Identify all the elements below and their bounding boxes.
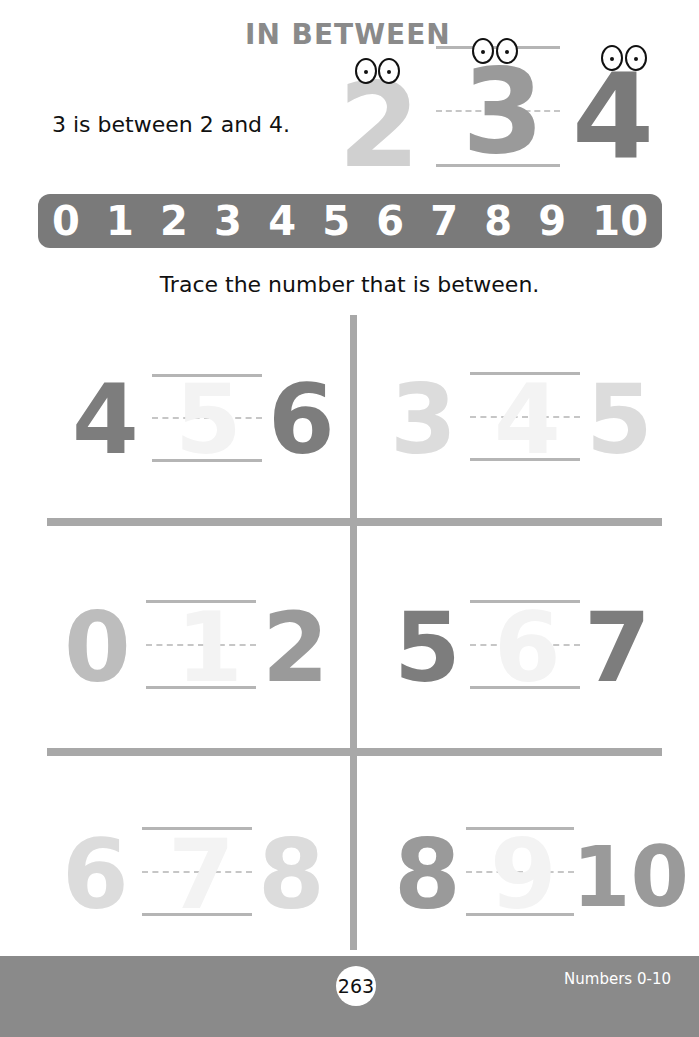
page-number: 263 bbox=[336, 966, 376, 1006]
number-line-item: 2 bbox=[160, 198, 188, 244]
right-number: 10 bbox=[572, 835, 689, 919]
grid-divider-vertical bbox=[350, 315, 357, 950]
left-number: 3 bbox=[390, 372, 457, 468]
number-line-item: 6 bbox=[376, 198, 404, 244]
eye-icon bbox=[601, 45, 623, 71]
right-number: 5 bbox=[586, 372, 653, 468]
example-sentence: 3 is between 2 and 4. bbox=[52, 112, 290, 137]
left-number: 5 bbox=[394, 600, 461, 696]
trace-number[interactable]: 1 bbox=[176, 600, 243, 696]
eye-icon bbox=[496, 38, 518, 64]
number-3: 3 bbox=[462, 52, 544, 170]
right-number: 8 bbox=[258, 827, 325, 923]
page-title: IN BETWEEN bbox=[245, 18, 451, 51]
number-line-item: 4 bbox=[268, 198, 296, 244]
number-line-item: 8 bbox=[484, 198, 512, 244]
number-line-item: 9 bbox=[538, 198, 566, 244]
number-4: 4 bbox=[572, 58, 654, 176]
exercise-cell: 3 4 5 bbox=[372, 350, 672, 490]
number-2: 2 bbox=[338, 66, 420, 184]
number-line-item: 5 bbox=[322, 198, 350, 244]
eye-icon bbox=[355, 58, 377, 84]
number-line: 0 1 2 3 4 5 6 7 8 9 10 bbox=[38, 194, 662, 248]
eye-icon bbox=[378, 58, 400, 84]
right-number: 2 bbox=[262, 600, 329, 696]
left-number: 8 bbox=[394, 827, 461, 923]
exercise-cell: 6 7 8 bbox=[50, 805, 350, 945]
trace-number[interactable]: 9 bbox=[490, 827, 557, 923]
trace-number[interactable]: 4 bbox=[494, 372, 561, 468]
number-line-item: 1 bbox=[106, 198, 134, 244]
number-line-item: 7 bbox=[430, 198, 458, 244]
section-label: Numbers 0-10 bbox=[564, 970, 671, 988]
left-number: 0 bbox=[64, 600, 131, 696]
number-line-item: 3 bbox=[214, 198, 242, 244]
exercise-cell: 5 6 7 bbox=[372, 578, 672, 718]
eye-icon bbox=[625, 45, 647, 71]
left-number: 6 bbox=[62, 827, 129, 923]
trace-number[interactable]: 7 bbox=[168, 827, 235, 923]
trace-number[interactable]: 6 bbox=[494, 600, 561, 696]
number-line-item: 0 bbox=[52, 198, 80, 244]
instruction-text: Trace the number that is between. bbox=[0, 272, 699, 297]
exercise-cell: 8 9 10 bbox=[372, 805, 672, 945]
trace-number[interactable]: 5 bbox=[175, 372, 242, 468]
grid-divider-horizontal bbox=[47, 748, 662, 756]
exercise-cell: 4 5 6 bbox=[50, 350, 350, 490]
left-number: 4 bbox=[72, 372, 139, 468]
right-number: 6 bbox=[268, 372, 335, 468]
eye-icon bbox=[472, 38, 494, 64]
grid-divider-horizontal bbox=[47, 518, 662, 526]
right-number: 7 bbox=[584, 600, 651, 696]
exercise-cell: 0 1 2 bbox=[50, 578, 350, 718]
number-line-item: 10 bbox=[592, 198, 648, 244]
